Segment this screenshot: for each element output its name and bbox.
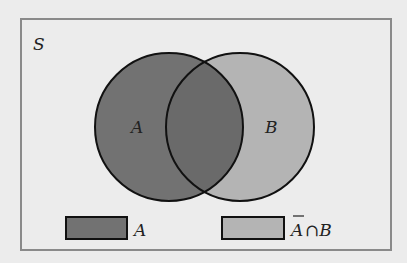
legend-swatch-not-a-and-b <box>222 217 284 239</box>
venn-diagram: S A B A A ∩B <box>0 0 407 263</box>
set-b-label: B <box>264 117 278 137</box>
legend-label-complement: A <box>289 220 303 240</box>
legend-label-a: A <box>132 220 146 240</box>
legend-swatch-a <box>66 217 127 239</box>
set-a-label: A <box>129 117 143 137</box>
legend-label-intersection: ∩B <box>305 220 332 240</box>
universe-label: S <box>33 34 45 54</box>
